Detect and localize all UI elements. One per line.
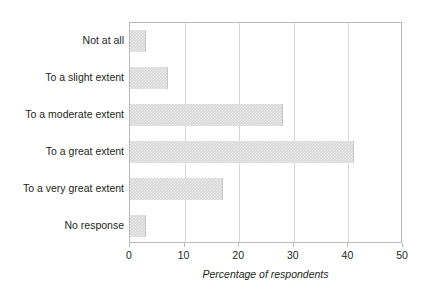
- bar: [130, 178, 223, 200]
- bar-row: [130, 97, 401, 134]
- bar: [130, 104, 283, 126]
- bar-row: [130, 170, 401, 207]
- bar: [130, 67, 168, 89]
- x-axis-title: Percentage of respondents: [129, 268, 402, 280]
- y-axis-tick-label: To a slight extent: [0, 71, 124, 83]
- chart-figure: Not at allTo a slight extentTo a moderat…: [0, 0, 433, 300]
- x-axis-tick-label: 10: [169, 249, 199, 261]
- x-axis-tick-mark: [293, 243, 294, 247]
- bar: [130, 30, 146, 52]
- y-axis-tick-label: Not at all: [0, 34, 124, 46]
- bar-row: [130, 134, 401, 171]
- x-axis-tick-label: 30: [278, 249, 308, 261]
- x-axis-tick-label: 0: [114, 249, 144, 261]
- bar-row: [130, 207, 401, 244]
- plot-area: [129, 22, 402, 243]
- bar: [130, 215, 146, 237]
- bar-row: [130, 23, 401, 60]
- y-axis-tick-label: To a moderate extent: [0, 108, 124, 120]
- x-axis-tick-label: 40: [332, 249, 362, 261]
- bar-row: [130, 60, 401, 97]
- x-axis-tick-mark: [402, 243, 403, 247]
- x-axis-tick-label: 50: [387, 249, 417, 261]
- x-axis-tick-mark: [129, 243, 130, 247]
- y-axis-tick-label: To a very great extent: [0, 182, 124, 194]
- bar: [130, 141, 354, 163]
- x-axis-tick-mark: [238, 243, 239, 247]
- bars-group: [130, 23, 401, 242]
- y-axis-tick-label: To a great extent: [0, 145, 124, 157]
- x-axis-tick-label: 20: [223, 249, 253, 261]
- y-axis-tick-label: No response: [0, 219, 124, 231]
- x-axis-tick-mark: [347, 243, 348, 247]
- x-axis-tick-mark: [184, 243, 185, 247]
